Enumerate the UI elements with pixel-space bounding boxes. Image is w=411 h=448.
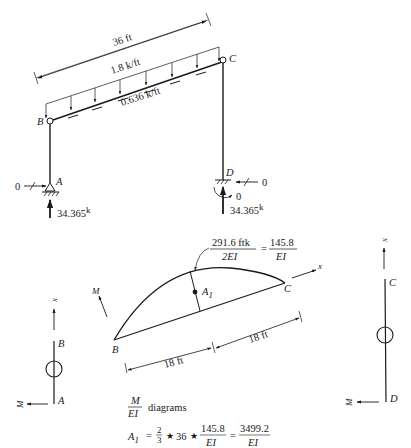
axis-x-label: x [49, 298, 59, 303]
axis-m-label: M [344, 398, 354, 407]
hinge-c [220, 57, 226, 63]
frame: 36 ft 1.8 k/ft 0.636 k/ft [15, 13, 267, 219]
svg-text:=: = [230, 430, 236, 441]
peak-label-denominator: 2EI [222, 251, 238, 262]
half-span-left-label: 18 ft [163, 354, 185, 370]
formula-lhs: A1 [127, 431, 139, 445]
reaction-a-vertical: 34.365k [57, 205, 91, 219]
peak-label-numerator: 291.6 ftk [212, 237, 251, 248]
reaction-d-vertical: 34.365k [230, 202, 264, 216]
support-d: D 0 0 34.365k [214, 167, 267, 216]
svg-text:EI: EI [247, 437, 258, 448]
node-c-label: C [229, 53, 237, 64]
centroid-dot [193, 290, 198, 295]
support-a: A 0 34.365k [15, 176, 91, 219]
node-c-label: C [389, 277, 397, 288]
svg-text:36: 36 [176, 431, 187, 442]
reaction-d-horizontal: 0 [262, 177, 267, 188]
caption-frac-denominator: EI [127, 408, 138, 419]
svg-text:★: ★ [190, 431, 198, 441]
svg-text:145.8: 145.8 [201, 423, 225, 434]
distributed-load-label: 1.8 k/ft [109, 56, 141, 76]
svg-text:=: = [146, 430, 152, 441]
moment-diagram-cd: x C D M [344, 238, 398, 407]
moment-diagram-ab: x B A M [15, 298, 65, 409]
svg-text:2: 2 [157, 425, 162, 435]
node-d-label: D [225, 167, 234, 178]
axis-m-label: M [91, 286, 100, 296]
svg-text:EI: EI [205, 437, 216, 448]
distributed-load: 1.8 k/ft [46, 47, 219, 118]
structural-frame-figure: 36 ft 1.8 k/ft 0.636 k/ft [0, 0, 411, 448]
axis-x-label: x [379, 238, 389, 243]
parabola [114, 268, 285, 340]
node-d-label: D [389, 393, 398, 404]
axis-m-label: M [15, 400, 25, 409]
peak-eq: = [261, 243, 267, 254]
node-c-label: C [284, 283, 292, 294]
svg-text:★: ★ [166, 431, 174, 441]
area-formula: A1 = 2 3 ★ 36 ★ 145.8 EI = 3499.2 EI [127, 423, 270, 448]
node-b-label: B [37, 116, 44, 127]
span-label: 36 ft [111, 31, 133, 48]
moment-diagram-bc: A1 291.6 ftk 2EI = 145.8 EI x M B C 18 f… [91, 237, 322, 373]
node-a-label: A [57, 395, 65, 406]
span-dimension: 36 ft [34, 13, 211, 84]
node-a-label: A [55, 176, 63, 187]
axial-load-label: 0.636 k/ft [119, 85, 161, 108]
caption-frac-numerator: M [130, 395, 141, 406]
svg-text:3: 3 [157, 435, 162, 445]
node-b-label: B [112, 344, 119, 355]
caption-text: diagrams [148, 402, 187, 413]
axis-x-label: x [317, 261, 322, 271]
half-span-right-label: 18 ft [247, 328, 269, 345]
hinge-b [47, 118, 53, 124]
peak-value-numerator: 145.8 [270, 237, 294, 248]
peak-value-denominator: EI [275, 251, 286, 262]
area-label: A1 [201, 286, 213, 300]
reaction-a-horizontal: 0 [15, 181, 20, 192]
node-b-label: B [58, 338, 65, 349]
caption: M EI diagrams [127, 395, 187, 419]
reaction-d-moment: 0 [236, 191, 241, 202]
svg-text:3499.2: 3499.2 [240, 423, 269, 434]
